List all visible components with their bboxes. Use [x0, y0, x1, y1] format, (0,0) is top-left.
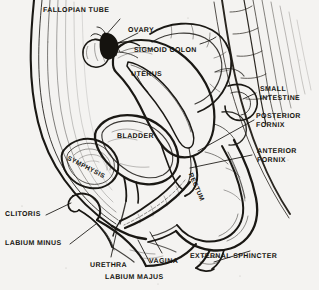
- label-labium-minus: LABIUM MINUS: [5, 240, 62, 249]
- label-vagina: VAGINA: [149, 258, 178, 267]
- label-external-sphincter: EXTERNAL SPHINCTER: [190, 253, 277, 262]
- label-small-intestine: SMALL INTESTINE: [260, 86, 300, 103]
- label-anterior-fornix: ANTERIOR FORNIX: [257, 148, 297, 165]
- label-sigmoid-colon: SIGMOID COLON: [134, 47, 197, 56]
- label-fallopian-tube: FALLOPIAN TUBE: [43, 7, 109, 16]
- label-posterior-fornix: POSTERIOR FORNIX: [256, 113, 301, 130]
- label-labium-majus: LABIUM MAJUS: [105, 274, 163, 283]
- label-ovary: OVARY: [128, 27, 154, 36]
- label-urethra: URETHRA: [90, 262, 127, 271]
- label-uterus: UTERUS: [131, 71, 162, 80]
- anatomical-diagram: FALLOPIAN TUBE OVARY SIGMOID COLON UTERU…: [0, 0, 319, 290]
- label-clitoris: CLITORIS: [5, 211, 41, 220]
- label-bladder: BLADDER: [117, 133, 154, 142]
